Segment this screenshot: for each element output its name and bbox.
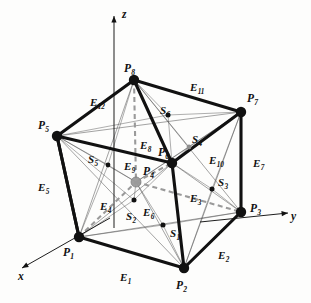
vertex-label-P3: P3 <box>250 203 261 217</box>
edge-label-E10: E10 <box>209 155 224 169</box>
edge-label-E6: E6 <box>143 207 154 221</box>
axis-arrow-x <box>22 263 29 268</box>
cube-edge <box>57 136 79 237</box>
cube-edge <box>172 163 184 268</box>
vertex-dot-P2 <box>179 263 189 273</box>
edge-label-E8: E8 <box>140 140 151 154</box>
face-label-S3: S3 <box>218 177 228 191</box>
face-center-dot-S2 <box>132 198 137 203</box>
edge-label-E2: E2 <box>218 250 229 264</box>
face-label-S4: S4 <box>192 134 202 148</box>
face-label-S2: S2 <box>126 211 136 225</box>
vertex-dot-P3 <box>236 207 246 217</box>
edge-label-E4: E4 <box>100 201 111 215</box>
cube-edge <box>57 136 172 163</box>
cube-diagram: P1P2P3P4P5P6P7P8E1E2E3E4E5E6E7E8E9E10E11… <box>0 0 311 303</box>
edge-label-E5: E5 <box>38 182 49 196</box>
face-label-S6: S6 <box>160 105 170 119</box>
vertex-label-P7: P7 <box>247 93 258 107</box>
vertex-label-P1: P1 <box>63 247 74 261</box>
edge-label-E3: E3 <box>190 193 201 207</box>
vertex-label-P5: P5 <box>38 120 49 134</box>
edge-label-E7: E7 <box>253 158 264 172</box>
axis-label-x: x <box>18 271 24 283</box>
face-center-dot-S5 <box>106 163 111 168</box>
cube-edge <box>134 80 241 112</box>
vertex-dot-P4 <box>131 177 141 187</box>
face-center-dot-S3 <box>210 187 215 192</box>
edge-label-E9: E9 <box>124 161 135 175</box>
vertex-label-P6: P6 <box>158 147 169 161</box>
axis-arrow-z <box>111 16 116 22</box>
cube-svg <box>0 0 311 303</box>
edge-label-E11: E11 <box>190 82 205 96</box>
vertex-label-P8: P8 <box>124 63 135 77</box>
edge-label-E12: E12 <box>90 97 105 111</box>
vertex-dot-P1 <box>74 232 84 242</box>
face-center-dot-S4 <box>187 145 192 150</box>
axis-label-z: z <box>122 9 126 21</box>
face-label-S5: S5 <box>88 154 98 168</box>
axis-label-y: y <box>291 211 296 223</box>
face-center-dot-S1 <box>161 223 166 228</box>
cube-edge <box>79 237 184 268</box>
vertex-label-P4: P4 <box>143 166 154 180</box>
vertex-dot-P5 <box>52 131 62 141</box>
vertex-label-P2: P2 <box>176 280 187 294</box>
face-label-S1: S1 <box>170 228 180 242</box>
vertex-dot-P7 <box>236 107 246 117</box>
edge-label-E1: E1 <box>120 272 131 286</box>
axis-arrow-y <box>281 211 288 216</box>
